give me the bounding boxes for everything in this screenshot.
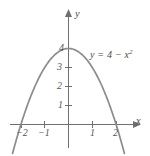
- x-tick-label-minus1: −1: [38, 128, 50, 138]
- y-tick-label-1: 1: [58, 100, 63, 110]
- equation-exponent: 2: [129, 48, 132, 55]
- y-tick-label-3: 3: [57, 62, 62, 72]
- y-axis-label: y: [75, 9, 80, 20]
- equation-main-text: y = 4 − x: [90, 49, 129, 60]
- y-tick-label-4: 4: [59, 43, 64, 53]
- y-axis-arrow-icon: [65, 9, 72, 17]
- x-tick-label-plus2: 2: [113, 128, 118, 138]
- equation-annotation: y = 4 − x2: [90, 50, 133, 60]
- y-tick-label-2: 2: [57, 81, 62, 91]
- x-axis-label: x: [136, 116, 141, 127]
- parabola-figure: 4 3 2 1 −2 −1 1 2 x y y = 4 − x2: [0, 0, 150, 156]
- x-tick-label-plus1: 1: [90, 128, 95, 138]
- x-tick-label-minus2: −2: [16, 128, 28, 138]
